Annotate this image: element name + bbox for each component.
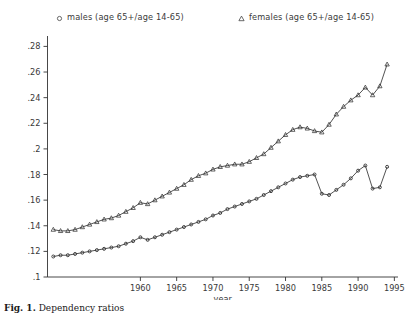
x-tick-label: 1970: [203, 283, 224, 293]
y-tick-label: .18: [27, 170, 40, 180]
series-females: [51, 62, 389, 232]
x-axis-title: year: [214, 294, 233, 300]
x-tick-label: 1975: [239, 283, 260, 293]
y-tick-label: .28: [27, 41, 40, 51]
caption-text: Dependency ratios: [39, 303, 125, 313]
x-tick-label: 1980: [275, 283, 296, 293]
y-tick-label: .26: [27, 67, 40, 77]
y-tick-label: .22: [27, 118, 40, 128]
figure-container: males (age 65+/age 14-65) females (age 6…: [0, 0, 405, 318]
triangle-marker-icon: [51, 227, 55, 231]
y-tick-label: .24: [27, 93, 40, 103]
circle-marker-icon: [386, 165, 389, 168]
caption-label: Fig. 1.: [4, 303, 36, 313]
x-tick-label: 1985: [311, 283, 332, 293]
x-tick-label: 1960: [130, 283, 151, 293]
figure-caption: Fig. 1. Dependency ratios: [4, 303, 402, 318]
y-tick-label: .1: [33, 272, 41, 282]
x-tick-label: 1965: [166, 283, 187, 293]
line-chart-plot: .1.12.14.16.18.2.22.24.26.28196019651970…: [0, 0, 405, 300]
y-tick-label: .12: [27, 246, 40, 256]
x-tick-label: 1990: [348, 283, 369, 293]
series-males: [52, 164, 389, 258]
y-tick-label: .14: [27, 221, 40, 231]
y-tick-label: .16: [27, 195, 40, 205]
y-tick-label: .2: [33, 144, 41, 154]
x-tick-label: 1995: [384, 283, 405, 293]
